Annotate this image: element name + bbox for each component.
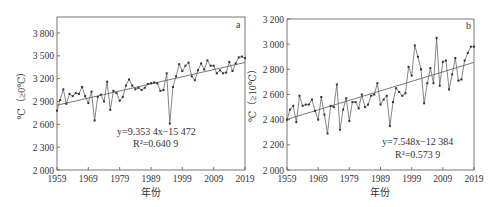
data-point-marker <box>116 92 118 94</box>
data-point-marker <box>97 96 99 98</box>
chart-a-r2: R²=0.640 9 <box>133 138 178 149</box>
data-point-marker <box>286 119 288 121</box>
data-point-marker <box>389 125 391 127</box>
data-point-marker <box>191 75 193 77</box>
y-tick-label: 2 600 <box>33 120 55 130</box>
data-point-marker <box>342 109 344 111</box>
x-tick-label: 2019 <box>236 174 255 184</box>
data-point-marker <box>364 106 366 108</box>
data-point-marker <box>330 105 332 107</box>
y-tick-label: 3 000 <box>263 40 285 50</box>
data-point-marker <box>203 69 205 71</box>
y-tick-label: 2 800 <box>263 65 285 75</box>
data-point-marker <box>219 69 221 71</box>
data-point-marker <box>163 89 165 91</box>
data-point-marker <box>429 67 431 69</box>
data-point-marker <box>141 89 143 91</box>
data-point-marker <box>323 114 325 116</box>
data-point-marker <box>432 82 434 84</box>
y-tick-label: 2 300 <box>33 143 55 153</box>
data-point-marker <box>166 72 168 74</box>
data-point-marker <box>137 87 139 89</box>
data-point-marker <box>457 80 459 82</box>
data-point-marker <box>398 91 400 93</box>
data-point-marker <box>150 82 152 84</box>
data-point-marker <box>184 65 186 67</box>
data-point-marker <box>106 81 108 83</box>
data-point-marker <box>370 95 372 97</box>
data-point-marker <box>345 97 347 99</box>
data-point-marker <box>78 93 80 95</box>
data-point-marker <box>122 96 124 98</box>
data-point-marker <box>169 123 171 125</box>
data-point-marker <box>181 70 183 72</box>
chart-a-ylabel: ℃（≥0℃） <box>16 67 27 120</box>
data-point-marker <box>206 59 208 61</box>
data-point-marker <box>194 79 196 81</box>
chart-a-xticks: 1959196919791989199920092019 <box>48 167 255 184</box>
chart-a-markers <box>56 56 246 125</box>
data-point-marker <box>147 83 149 85</box>
data-point-marker <box>298 95 300 97</box>
data-point-marker <box>100 94 102 96</box>
chart-figure: 2 0002 3002 6002 9003 2003 5003 800 1959… <box>0 0 495 207</box>
x-tick-label: 1959 <box>278 174 297 184</box>
data-point-marker <box>156 82 158 84</box>
data-point-marker <box>308 104 310 106</box>
chart-b-plot-frame <box>287 19 474 170</box>
data-point-marker <box>361 94 363 96</box>
data-point-marker <box>216 72 218 74</box>
data-point-marker <box>392 101 394 103</box>
x-tick-label: 1969 <box>79 174 98 184</box>
chart-b-yticks: 2 0002 2002 4002 6002 8003 0003 200 <box>263 15 290 176</box>
data-point-marker <box>467 52 469 54</box>
chart-b-series-line <box>287 38 474 134</box>
x-tick-label: 1959 <box>48 174 67 184</box>
x-tick-label: 2019 <box>465 174 484 184</box>
data-point-marker <box>451 73 453 75</box>
data-point-marker <box>426 82 428 84</box>
data-point-marker <box>302 105 304 107</box>
chart-b: 2 0002 2002 4002 6002 8003 0003 200 1959… <box>247 15 484 199</box>
x-tick-label: 1979 <box>110 174 129 184</box>
data-point-marker <box>59 99 61 101</box>
x-tick-label: 2009 <box>204 174 223 184</box>
x-tick-label: 1979 <box>340 174 359 184</box>
data-point-marker <box>414 44 416 46</box>
data-point-marker <box>408 66 410 68</box>
data-point-marker <box>333 106 335 108</box>
data-point-marker <box>473 46 475 48</box>
data-point-marker <box>188 62 190 64</box>
x-tick-label: 1989 <box>142 174 161 184</box>
data-point-marker <box>464 60 466 62</box>
data-point-marker <box>94 120 96 122</box>
data-point-marker <box>376 82 378 84</box>
data-point-marker <box>119 100 121 102</box>
data-point-marker <box>84 95 86 97</box>
data-point-marker <box>305 104 307 106</box>
data-point-marker <box>81 86 83 88</box>
x-tick-label: 2009 <box>433 174 452 184</box>
data-point-marker <box>125 85 127 87</box>
data-point-marker <box>327 133 329 135</box>
data-point-marker <box>210 65 212 67</box>
data-point-marker <box>295 121 297 123</box>
data-point-marker <box>241 56 243 58</box>
data-point-marker <box>131 85 133 87</box>
data-point-marker <box>159 90 161 92</box>
data-point-marker <box>367 104 369 106</box>
data-point-marker <box>56 110 58 112</box>
y-tick-label: 3 200 <box>263 15 285 25</box>
data-point-marker <box>470 46 472 48</box>
chart-b-ylabel: ℃（≥10℃） <box>247 64 258 122</box>
data-point-marker <box>383 99 385 101</box>
data-point-marker <box>373 94 375 96</box>
y-tick-label: 2 400 <box>263 115 285 125</box>
data-point-marker <box>200 62 202 64</box>
data-point-marker <box>420 68 422 70</box>
data-point-marker <box>317 119 319 121</box>
data-point-marker <box>90 91 92 93</box>
data-point-marker <box>244 57 246 59</box>
chart-b-xlabel: 年份 <box>370 186 390 198</box>
data-point-marker <box>404 92 406 94</box>
